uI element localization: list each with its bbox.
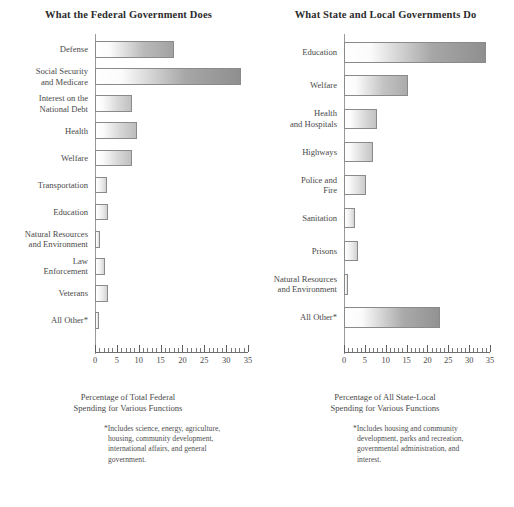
x-axis-tick-label: 35 <box>486 356 494 365</box>
x-axis-minor-tick <box>348 348 349 352</box>
bar-label: Health and Hospitals <box>257 108 337 129</box>
bar <box>344 241 358 262</box>
bar-label: Interest on the National Debt <box>0 93 88 114</box>
bar-label: Law Enforcement <box>0 256 88 277</box>
bar <box>344 42 486 63</box>
x-axis-tick-label: 10 <box>382 356 390 365</box>
x-axis-minor-tick <box>169 348 170 352</box>
x-axis-tick-label: 15 <box>402 356 410 365</box>
bar-label: Education <box>257 47 337 57</box>
x-axis-minor-tick <box>440 348 441 352</box>
bar <box>95 231 100 248</box>
bar-label: Health <box>0 126 88 136</box>
x-axis-minor-tick <box>143 348 144 352</box>
x-axis-minor-tick <box>165 348 166 352</box>
x-axis-major-tick <box>448 345 449 352</box>
x-axis-minor-tick <box>432 348 433 352</box>
x-axis-minor-tick <box>361 348 362 352</box>
x-axis-minor-tick <box>178 348 179 352</box>
axis-caption-federal: Percentage of Total Federal Spending for… <box>28 392 228 414</box>
bar-label: Welfare <box>0 153 88 163</box>
bar-label: Natural Resources and Environment <box>257 274 337 295</box>
x-axis-minor-tick <box>411 348 412 352</box>
x-axis-minor-tick <box>200 348 201 352</box>
bar <box>95 177 107 194</box>
bar <box>344 175 366 196</box>
x-axis-line <box>344 352 490 353</box>
bar <box>95 95 132 112</box>
axis-caption-state-local: Percentage of All State-Local Spending f… <box>285 392 485 414</box>
x-axis-tick-label: 20 <box>178 356 186 365</box>
bar-label: Veterans <box>0 288 88 298</box>
panel-state-local: What State and Local Governments Do Educ… <box>257 0 514 507</box>
x-axis-tick-label: 30 <box>222 356 230 365</box>
x-axis-minor-tick <box>126 348 127 352</box>
x-axis-line <box>95 352 248 353</box>
x-axis-minor-tick <box>461 348 462 352</box>
bar-label: Social Security and Medicare <box>0 66 88 87</box>
x-axis-tick-label: 25 <box>444 356 452 365</box>
x-axis-major-tick <box>490 345 491 352</box>
x-axis-minor-tick <box>436 348 437 352</box>
x-axis-major-tick <box>226 345 227 352</box>
x-axis-tick-label: 5 <box>115 356 119 365</box>
x-axis-minor-tick <box>423 348 424 352</box>
x-axis-major-tick <box>161 345 162 352</box>
x-axis-tick-label: 5 <box>363 356 367 365</box>
x-axis-minor-tick <box>357 348 358 352</box>
x-axis-major-tick <box>427 345 428 352</box>
x-axis-minor-tick <box>213 348 214 352</box>
x-axis-major-tick <box>365 345 366 352</box>
bar <box>95 122 137 139</box>
x-axis-minor-tick <box>477 348 478 352</box>
x-axis-minor-tick <box>390 348 391 352</box>
bar-label: Police and Fire <box>257 175 337 196</box>
x-axis-major-tick <box>117 345 118 352</box>
bar <box>344 307 440 328</box>
x-axis-minor-tick <box>465 348 466 352</box>
x-axis-minor-tick <box>147 348 148 352</box>
x-axis-tick-label: 15 <box>156 356 164 365</box>
x-axis-minor-tick <box>452 348 453 352</box>
x-axis-minor-tick <box>187 348 188 352</box>
bar <box>95 150 132 167</box>
bar <box>95 312 99 329</box>
plot-area-state-local: EducationWelfareHealth and HospitalsHigh… <box>257 34 514 359</box>
x-axis-minor-tick <box>486 348 487 352</box>
x-axis-minor-tick <box>482 348 483 352</box>
x-axis-minor-tick <box>174 348 175 352</box>
x-axis-minor-tick <box>369 348 370 352</box>
x-axis-minor-tick <box>398 348 399 352</box>
bar <box>344 274 348 295</box>
x-axis-minor-tick <box>239 348 240 352</box>
x-axis-minor-tick <box>152 348 153 352</box>
x-axis-major-tick <box>407 345 408 352</box>
x-axis-minor-tick <box>191 348 192 352</box>
x-axis-minor-tick <box>222 348 223 352</box>
chart-page: What the Federal Government Does Defense… <box>0 0 514 507</box>
footnote-state-local: *Includes housing and community developm… <box>357 424 512 465</box>
bar <box>344 208 355 229</box>
panel-title-federal: What the Federal Government Does <box>0 0 257 20</box>
bar-label: Highways <box>257 147 337 157</box>
bar-label: Education <box>0 207 88 217</box>
x-axis-major-tick <box>248 345 249 352</box>
x-axis-minor-tick <box>196 348 197 352</box>
x-axis-major-tick <box>182 345 183 352</box>
x-axis-minor-tick <box>377 348 378 352</box>
x-axis-major-tick <box>344 345 345 352</box>
x-axis-minor-tick <box>244 348 245 352</box>
x-axis-major-tick <box>469 345 470 352</box>
bar-label: Natural Resources and Environment <box>0 229 88 250</box>
x-axis-tick-label: 25 <box>200 356 208 365</box>
x-axis-minor-tick <box>217 348 218 352</box>
panel-title-state-local: What State and Local Governments Do <box>257 0 514 20</box>
x-axis-major-tick <box>204 345 205 352</box>
bar <box>344 75 408 96</box>
bar <box>95 258 105 275</box>
x-axis-minor-tick <box>457 348 458 352</box>
x-axis-minor-tick <box>231 348 232 352</box>
x-axis-tick-label: 0 <box>93 356 97 365</box>
x-axis-major-tick <box>139 345 140 352</box>
bar <box>344 142 373 163</box>
